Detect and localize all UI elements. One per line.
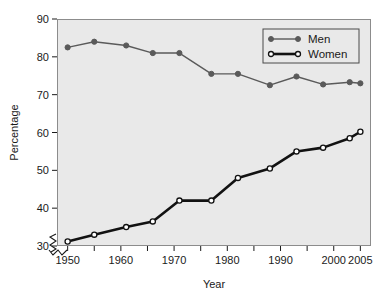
data-point-men	[347, 80, 352, 85]
data-point-women	[65, 239, 70, 244]
y-axis-tick-label: 60	[37, 127, 49, 139]
data-point-men	[92, 39, 97, 44]
data-point-women	[235, 175, 240, 180]
data-point-women	[267, 166, 272, 171]
data-point-men	[321, 82, 326, 87]
data-point-men	[267, 83, 272, 88]
y-axis-break-icon	[50, 234, 56, 252]
y-axis-tick-label: 90	[37, 13, 49, 25]
y-axis-tick-label: 50	[37, 164, 49, 176]
x-axis-tick-label: 1990	[268, 254, 292, 266]
data-point-women	[124, 224, 129, 229]
legend-marker-men	[269, 37, 274, 42]
legend-marker-men	[296, 37, 301, 42]
x-axis-tick-label: 2000	[322, 254, 346, 266]
y-axis-title: Percentage	[8, 104, 20, 160]
data-point-women	[358, 129, 363, 134]
y-axis-tick-label: 70	[37, 89, 49, 101]
legend-marker-women	[296, 52, 301, 57]
x-axis-tick-label: 1950	[55, 254, 79, 266]
data-point-women	[209, 198, 214, 203]
data-point-women	[321, 145, 326, 150]
data-point-men	[150, 50, 155, 55]
data-point-men	[235, 71, 240, 76]
y-axis-tick-label: 80	[37, 51, 49, 63]
x-axis-title: Year	[203, 278, 226, 290]
data-point-men	[65, 45, 70, 50]
legend-marker-women	[269, 52, 274, 57]
data-point-men	[358, 81, 363, 86]
data-point-men	[294, 74, 299, 79]
data-point-men	[209, 71, 214, 76]
x-axis-tick-label: 1960	[109, 254, 133, 266]
x-axis-tick-label: 2005	[348, 254, 372, 266]
data-point-women	[150, 219, 155, 224]
x-axis-tick-label: 1970	[162, 254, 186, 266]
data-point-men	[124, 43, 129, 48]
x-axis-tick-label: 1980	[215, 254, 239, 266]
data-point-women	[294, 149, 299, 154]
legend-label-women: Women	[308, 48, 347, 60]
legend-label-men: Men	[308, 33, 330, 45]
data-point-women	[177, 198, 182, 203]
data-point-women	[92, 232, 97, 237]
data-point-women	[347, 136, 352, 141]
line-chart: 3040506070809019501960197019801990200020…	[0, 0, 382, 294]
chart-container: 3040506070809019501960197019801990200020…	[0, 0, 382, 294]
data-point-men	[177, 50, 182, 55]
y-axis-tick-label: 30	[37, 240, 49, 252]
y-axis-tick-label: 40	[37, 202, 49, 214]
